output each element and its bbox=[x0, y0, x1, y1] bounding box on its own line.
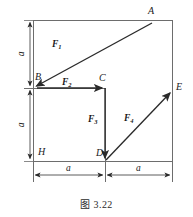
figure-caption: 图 3.22 bbox=[0, 196, 193, 211]
point-label-A: A bbox=[148, 6, 154, 16]
force-label-F1: F1 bbox=[52, 40, 62, 50]
point-label-B: B bbox=[35, 72, 41, 82]
figure-container: A B C D E H F1 F2 F3 F4 a a a a 图 3.22 bbox=[0, 0, 193, 217]
force-label-F2: F2 bbox=[62, 78, 72, 88]
force-vector-F4 bbox=[106, 93, 170, 160]
force-label-F4-subscript: 4 bbox=[130, 117, 133, 124]
point-label-H: H bbox=[38, 147, 45, 157]
point-label-C: C bbox=[99, 73, 106, 83]
force-label-F2-subscript: 2 bbox=[68, 81, 71, 88]
force-diagram-svg bbox=[0, 0, 193, 217]
point-label-D: D bbox=[96, 148, 103, 158]
force-label-F3: F3 bbox=[88, 115, 98, 125]
force-vector-F1 bbox=[37, 23, 153, 86]
dimension-label-bottom-left: a bbox=[66, 164, 71, 174]
dimension-label-bottom-right: a bbox=[136, 164, 141, 174]
dimension-label-left-upper: a bbox=[17, 47, 27, 61]
force-label-F1-subscript: 1 bbox=[58, 43, 61, 50]
force-label-F4: F4 bbox=[124, 114, 134, 124]
force-label-F3-subscript: 3 bbox=[94, 118, 97, 125]
dimension-label-left-lower: a bbox=[17, 118, 27, 132]
point-label-E: E bbox=[176, 82, 182, 92]
